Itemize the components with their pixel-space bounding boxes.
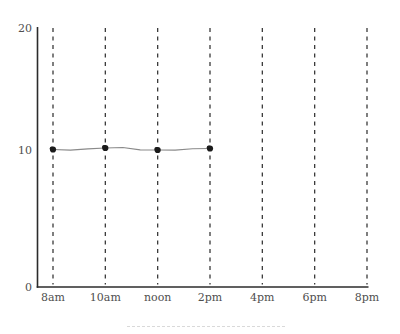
y-tick-label: 10 bbox=[18, 144, 32, 157]
x-tick-labels-group: 8am10amnoon2pm4pm6pm8pm bbox=[41, 291, 380, 304]
x-tick-label-8am: 8am bbox=[41, 291, 66, 304]
x-tick-label-10am: 10am bbox=[90, 291, 122, 304]
data-line bbox=[53, 148, 210, 151]
y-tick-label: 0 bbox=[25, 281, 32, 294]
data-point-blob bbox=[154, 147, 158, 151]
gridlines-group bbox=[53, 28, 367, 285]
x-tick-label-4pm: 4pm bbox=[250, 291, 275, 304]
x-tick-label-6pm: 6pm bbox=[302, 291, 327, 304]
x-tick-label-8pm: 8pm bbox=[355, 291, 380, 304]
x-tick-label-2pm: 2pm bbox=[198, 291, 223, 304]
x-tick-label-noon: noon bbox=[144, 291, 171, 304]
y-tick-label: 20 bbox=[18, 22, 32, 35]
data-point-blob bbox=[102, 145, 106, 149]
chart-canvas: 01020 8am10amnoon2pm4pm6pm8pm bbox=[0, 0, 400, 334]
data-point-blob bbox=[207, 145, 211, 149]
line-chart-figure: 01020 8am10amnoon2pm4pm6pm8pm bbox=[0, 0, 400, 334]
y-tick-labels-group: 01020 bbox=[18, 22, 32, 294]
data-point-blob bbox=[50, 146, 54, 150]
